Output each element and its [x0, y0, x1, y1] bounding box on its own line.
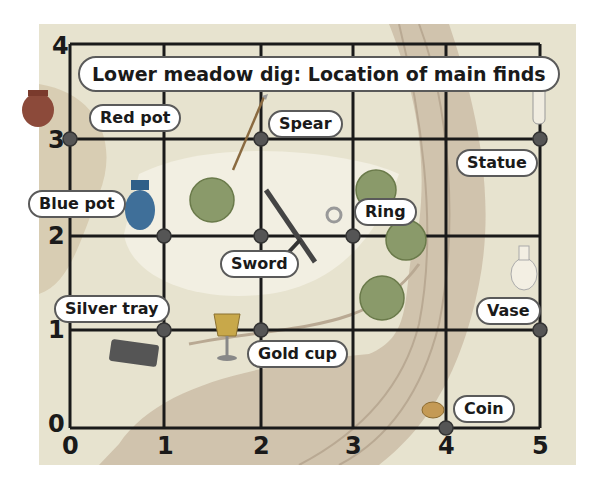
bush-icon [386, 220, 426, 260]
label-red-pot: Red pot [89, 104, 181, 132]
label-statue: Statue [456, 149, 538, 177]
y-tick-1: 1 [48, 318, 65, 342]
x-tick-2: 2 [253, 434, 270, 458]
label-gold-cup: Gold cup [247, 340, 348, 368]
label-sword: Sword [220, 250, 299, 278]
ring-icon [327, 208, 341, 222]
y-tick-2: 2 [48, 224, 65, 248]
point-red-pot [63, 132, 77, 146]
vase-icon [511, 246, 537, 290]
point-gold-cup [254, 323, 268, 337]
point-silver-tray [157, 323, 171, 337]
red-pot-icon [22, 90, 54, 127]
label-vase: Vase [476, 297, 541, 325]
label-silver-tray: Silver tray [54, 295, 170, 323]
point-spear [254, 132, 268, 146]
silver-tray-icon [109, 339, 160, 367]
x-tick-4: 4 [438, 434, 455, 458]
point-sword [254, 229, 268, 243]
coin-icon [422, 402, 444, 418]
y-tick-0: 0 [48, 412, 65, 436]
point-blue-pot [157, 229, 171, 243]
x-tick-3: 3 [345, 434, 362, 458]
blue-pot-icon [125, 180, 155, 230]
point-ring [346, 229, 360, 243]
y-tick-3: 3 [48, 128, 65, 152]
label-coin: Coin [453, 395, 515, 423]
point-statue [533, 132, 547, 146]
bush-icon [360, 276, 404, 320]
y-tick-4: 4 [52, 34, 69, 58]
label-ring: Ring [354, 198, 417, 226]
x-tick-5: 5 [532, 434, 549, 458]
map-title: Lower meadow dig: Location of main finds [78, 56, 560, 92]
point-vase [533, 323, 547, 337]
label-spear: Spear [268, 110, 343, 138]
x-tick-1: 1 [157, 434, 174, 458]
label-blue-pot: Blue pot [28, 190, 126, 218]
gold-cup-icon [214, 314, 240, 361]
bush-icon [190, 178, 234, 222]
